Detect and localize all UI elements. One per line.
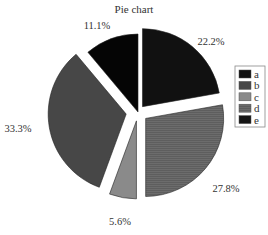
legend: abcde	[235, 66, 265, 127]
slice-label-b: 33.3%	[4, 123, 31, 134]
legend-label-c: c	[254, 91, 259, 103]
pie-slices	[48, 29, 223, 199]
slice-label-e: 11.1%	[84, 20, 111, 31]
legend-label-a: a	[254, 68, 259, 80]
legend-swatch-a	[239, 70, 251, 78]
legend-swatch-d	[239, 104, 251, 112]
chart-title: Pie chart	[115, 3, 154, 15]
slice-label-c: 5.6%	[109, 216, 131, 227]
slice-label-d: 27.8%	[212, 183, 239, 194]
slice-label-a: 22.2%	[197, 36, 224, 47]
legend-label-e: e	[254, 114, 259, 126]
legend-label-d: d	[254, 102, 260, 114]
pie-chart: Pie chart 22.2%27.8%5.6%33.3%11.1% abcde	[0, 0, 268, 235]
legend-swatch-c	[239, 93, 251, 101]
legend-swatch-b	[239, 81, 251, 89]
legend-swatch-e	[239, 116, 251, 124]
legend-label-b: b	[254, 79, 260, 91]
